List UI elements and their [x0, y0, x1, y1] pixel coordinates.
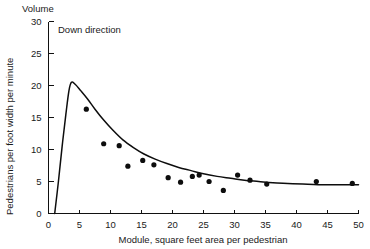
y-tick-label-5: 5	[36, 176, 41, 187]
data-point-0	[84, 107, 89, 112]
y-axis-tick-labels: 051015202530	[31, 16, 42, 219]
x-tick-label-50: 50	[353, 219, 364, 230]
x-axis-ticks	[49, 210, 359, 214]
data-point-1	[101, 141, 106, 146]
x-tick-label-15: 15	[136, 219, 147, 230]
data-point-4	[140, 158, 145, 163]
x-axis-tick-labels: 05101520253035404550	[46, 219, 364, 230]
fitted-curve	[55, 82, 359, 214]
x-tick-label-40: 40	[291, 219, 302, 230]
chart-annotation-down-direction: Down direction	[58, 24, 121, 35]
x-tick-label-30: 30	[229, 219, 240, 230]
y-tick-label-25: 25	[31, 48, 42, 59]
y-tick-label-20: 20	[31, 80, 42, 91]
data-point-16	[350, 181, 355, 186]
data-point-3	[125, 164, 130, 169]
data-point-6	[166, 175, 171, 180]
y-tick-label-0: 0	[36, 208, 41, 219]
data-point-11	[221, 188, 226, 193]
data-point-14	[264, 181, 269, 186]
x-tick-label-5: 5	[77, 219, 82, 230]
volume-scatter-chart: Volume Down direction Pedestrians per fo…	[0, 0, 370, 249]
data-point-5	[151, 162, 156, 167]
y-axis-title: Pedestrians per foot width per minute	[4, 58, 15, 215]
y-tick-label-10: 10	[31, 144, 42, 155]
data-point-13	[247, 178, 252, 183]
x-tick-label-0: 0	[46, 219, 51, 230]
data-point-10	[206, 179, 211, 184]
data-points	[84, 107, 355, 193]
x-tick-label-10: 10	[105, 219, 116, 230]
data-point-15	[314, 179, 319, 184]
y-tick-label-15: 15	[31, 112, 42, 123]
data-point-12	[235, 173, 240, 178]
y-tick-label-30: 30	[31, 16, 42, 27]
x-axis-title: Module, square feet area per pedestrian	[119, 234, 288, 245]
x-tick-label-25: 25	[198, 219, 209, 230]
x-tick-label-20: 20	[167, 219, 178, 230]
chart-header-label: Volume	[22, 3, 54, 14]
data-point-7	[178, 180, 183, 185]
chart-figure: Volume Down direction Pedestrians per fo…	[0, 0, 370, 249]
data-point-8	[190, 174, 195, 179]
data-point-2	[117, 143, 122, 148]
x-tick-label-45: 45	[322, 219, 333, 230]
y-axis-ticks	[49, 22, 54, 214]
x-tick-label-35: 35	[260, 219, 271, 230]
data-point-9	[197, 173, 202, 178]
